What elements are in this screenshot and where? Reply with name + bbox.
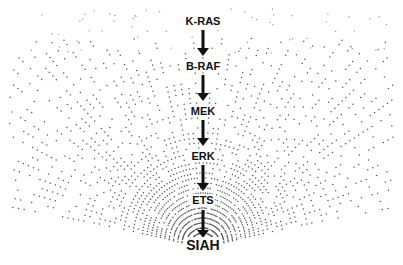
pathway-diagram: K-RAS B-RAF MEK ERK ETS SIAH: [0, 0, 403, 265]
node-siah: SIAH: [184, 237, 221, 253]
node-ets: ETS: [190, 194, 215, 206]
node-b-raf: B-RAF: [184, 60, 222, 72]
node-erk: ERK: [189, 150, 216, 162]
pathway-arrows: [0, 0, 403, 265]
node-mek: MEK: [189, 105, 217, 117]
node-k-ras: K-RAS: [184, 15, 223, 27]
